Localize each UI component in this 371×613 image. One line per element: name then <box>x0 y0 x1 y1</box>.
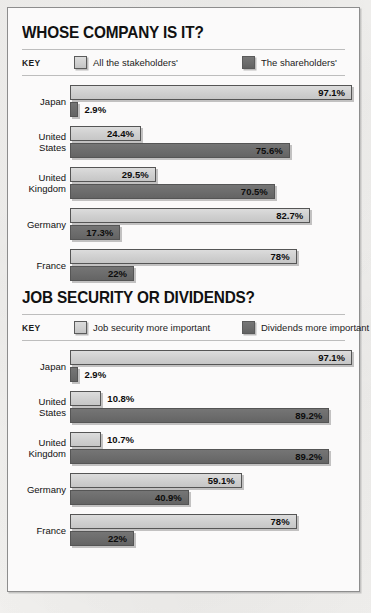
bar-value-label: 10.7% <box>101 434 134 445</box>
bar-group: 10.8%89.2% <box>70 391 345 423</box>
bar: 82.7% <box>70 208 310 223</box>
bar-group: 29.5%70.5% <box>70 167 345 199</box>
bar-value-label: 75.6% <box>256 145 289 156</box>
legend-item-job-security: Job security more important <box>74 321 242 334</box>
bar-line: 78% <box>70 249 345 264</box>
bar-line: 2.9% <box>70 367 352 382</box>
bar-value-label: 10.8% <box>101 393 134 404</box>
legend-item-label: All the stakeholders' <box>93 57 178 68</box>
bar-group: 82.7%17.3% <box>70 208 345 240</box>
bar: 22% <box>70 266 134 281</box>
chart-row: Japan97.1%2.9% <box>22 350 345 382</box>
chart-row: UnitedKingdom29.5%70.5% <box>22 167 345 199</box>
chart-row: UnitedStates10.8%89.2% <box>22 391 345 423</box>
chart-row: UnitedKingdom10.7%89.2% <box>22 432 345 464</box>
bar-value-label: 2.9% <box>78 369 106 380</box>
bar <box>70 102 78 117</box>
bar-line: 70.5% <box>70 184 345 199</box>
bar-line: 59.1% <box>70 473 345 488</box>
bar-value-label: 2.9% <box>78 104 106 115</box>
bar-line: 78% <box>70 514 345 529</box>
bar: 75.6% <box>70 143 290 158</box>
bar-line: 82.7% <box>70 208 345 223</box>
bar: 78% <box>70 514 297 529</box>
bar-group: 97.1%2.9% <box>70 85 352 117</box>
legend-item-label: Dividends more important <box>261 322 369 333</box>
legend-key-label: KEY <box>22 58 74 68</box>
bar: 89.2% <box>70 449 329 464</box>
bar-value-label: 22% <box>108 268 133 279</box>
bar: 29.5% <box>70 167 156 182</box>
category-label: Germany <box>22 484 70 495</box>
bar-group: 78%22% <box>70 514 345 546</box>
bar-value-label: 40.9% <box>155 492 188 503</box>
bar-rows: Japan97.1%2.9%UnitedStates10.8%89.2%Unit… <box>22 341 345 546</box>
bar: 97.1% <box>70 85 352 100</box>
bar-value-label: 82.7% <box>276 210 309 221</box>
bar-line: 97.1% <box>70 350 352 365</box>
legend-item-shareholders: The shareholders' <box>242 56 337 69</box>
bar-line: 89.2% <box>70 408 345 423</box>
bar-group: 59.1%40.9% <box>70 473 345 505</box>
category-label: Germany <box>22 219 70 230</box>
bar-value-label: 89.2% <box>295 410 328 421</box>
bar-group: 78%22% <box>70 249 345 281</box>
bar <box>70 432 101 447</box>
bar-line: 29.5% <box>70 167 345 182</box>
bar-group: 10.7%89.2% <box>70 432 345 464</box>
category-label: UnitedKingdom <box>22 437 70 459</box>
chart-row: France78%22% <box>22 514 345 546</box>
chart-row: Germany59.1%40.9% <box>22 473 345 505</box>
bar: 89.2% <box>70 408 329 423</box>
bar <box>70 367 78 382</box>
bar: 97.1% <box>70 350 352 365</box>
page-title: WHOSE COMPANY IS IT? <box>22 8 322 42</box>
bar-line: 89.2% <box>70 449 345 464</box>
chart-row: Japan97.1%2.9% <box>22 85 345 117</box>
legend-swatch-dark-icon <box>242 321 255 334</box>
bar-value-label: 78% <box>271 516 296 527</box>
bar: 78% <box>70 249 297 264</box>
bar: 59.1% <box>70 473 242 488</box>
bar-line: 22% <box>70 266 345 281</box>
legend-item-dividends: Dividends more important <box>242 321 369 334</box>
bar-line: 10.7% <box>70 432 345 447</box>
bar: 22% <box>70 531 134 546</box>
bar-group: 97.1%2.9% <box>70 350 352 382</box>
bar-value-label: 17.3% <box>86 227 119 238</box>
legend-swatch-dark-icon <box>242 56 255 69</box>
bar-value-label: 97.1% <box>318 352 351 363</box>
bar-group: 24.4%75.6% <box>70 126 345 158</box>
legend-item-stakeholders: All the stakeholders' <box>74 56 242 69</box>
chart-container: WHOSE COMPANY IS IT? KEY All the stakeho… <box>8 8 359 591</box>
legend-swatch-light-icon <box>74 56 87 69</box>
category-label: France <box>22 525 70 536</box>
page-title: JOB SECURITY OR DIVIDENDS? <box>22 281 322 307</box>
category-label: France <box>22 260 70 271</box>
legend-key-label: KEY <box>22 323 74 333</box>
chart-frame: WHOSE COMPANY IS IT? KEY All the stakeho… <box>7 7 360 592</box>
bar-line: 75.6% <box>70 143 345 158</box>
bar: 40.9% <box>70 490 189 505</box>
bar-rows: Japan97.1%2.9%UnitedStates24.4%75.6%Unit… <box>22 76 345 281</box>
chart-row: France78%22% <box>22 249 345 281</box>
bar-line: 22% <box>70 531 345 546</box>
bar: 24.4% <box>70 126 141 141</box>
category-label: UnitedKingdom <box>22 172 70 194</box>
bar-line: 24.4% <box>70 126 345 141</box>
chart-section-job-security: JOB SECURITY OR DIVIDENDS? KEY Job secur… <box>22 281 345 546</box>
bar-value-label: 59.1% <box>208 475 241 486</box>
bar-line: 10.8% <box>70 391 345 406</box>
legend-item-label: The shareholders' <box>261 57 337 68</box>
chart-section-whose-company: WHOSE COMPANY IS IT? KEY All the stakeho… <box>22 8 345 281</box>
bar-value-label: 22% <box>108 533 133 544</box>
bar: 17.3% <box>70 225 120 240</box>
bar-line: 97.1% <box>70 85 352 100</box>
bar-line: 17.3% <box>70 225 345 240</box>
bar: 70.5% <box>70 184 275 199</box>
bar-value-label: 97.1% <box>318 87 351 98</box>
category-label: UnitedStates <box>22 131 70 153</box>
category-label: UnitedStates <box>22 396 70 418</box>
bar-value-label: 89.2% <box>295 451 328 462</box>
bar-value-label: 70.5% <box>241 186 274 197</box>
